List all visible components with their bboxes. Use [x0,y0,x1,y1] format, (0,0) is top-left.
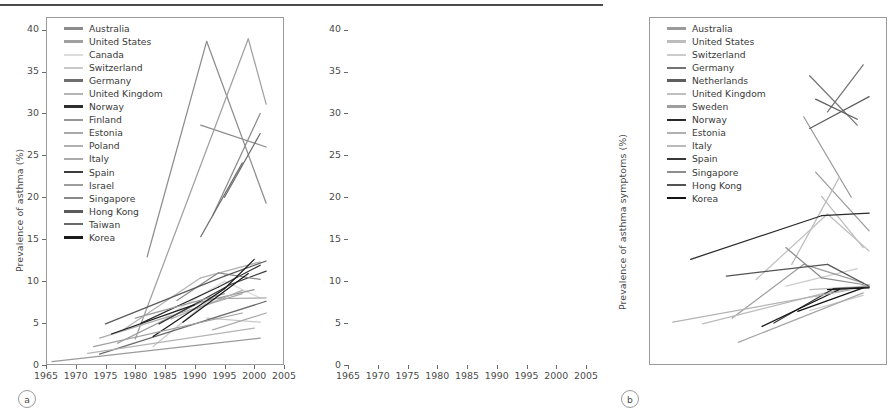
y-tick-mark [42,72,46,73]
legend-swatch [667,132,686,134]
legend-label: Norway [89,101,124,112]
legend-item: Spain [667,152,766,165]
legend-swatch [667,119,686,121]
legend-label: Germany [692,62,734,73]
data-line [792,177,840,264]
y-tick-mark [42,323,46,324]
legend-label: Korea [692,193,718,204]
legend-item: Italy [64,152,163,165]
x-tick-mark [195,365,196,369]
data-line [738,293,863,342]
data-line [828,65,864,112]
legend-swatch [64,119,83,121]
legend-item: Singapore [667,166,766,179]
data-line [201,163,243,237]
data-line [828,214,870,251]
legend-swatch [667,145,686,147]
y-tick-mark [344,30,348,31]
x-tick-label: 1970 [60,370,92,381]
legend-item: United Kingdom [64,87,163,100]
y-tick-label: 0 [315,359,341,370]
legend-item: Italy [667,139,766,152]
y-tick-mark [344,113,348,114]
x-tick-label: 1990 [481,370,513,381]
x-tick-mark [497,365,498,369]
x-tick-mark [467,365,468,369]
y-tick-label: 25 [13,149,39,160]
y-tick-label: 10 [13,275,39,286]
legend-swatch [667,171,686,174]
data-line [207,41,267,203]
x-tick-mark [378,365,379,369]
x-tick-label: 1990 [179,370,211,381]
legend-item: Australia [64,22,163,35]
y-tick-label: 15 [315,233,341,244]
legend-item: Norway [64,100,163,113]
legend-item: Taiwan [64,218,163,231]
x-tick-label: 1965 [30,370,62,381]
legend-item: United States [667,35,766,48]
y-tick-mark [42,281,46,282]
y-tick-label: 40 [315,23,341,34]
legend-label: Germany [89,75,131,86]
x-tick-label: 1975 [392,370,424,381]
y-tick-label: 30 [13,107,39,118]
legend-swatch [64,93,83,95]
x-tick-label: 2000 [238,370,270,381]
y-tick-label: 20 [13,191,39,202]
legend-item: United States [64,35,163,48]
legend-label: Canada [89,49,124,60]
x-tick-mark [135,365,136,369]
legend-swatch [64,67,83,69]
data-line [52,338,260,361]
legend-swatch [64,54,83,56]
x-tick-mark [225,365,226,369]
x-tick-mark [284,365,285,369]
x-tick-mark [527,365,528,369]
legend-swatch [64,171,83,174]
legend-swatch [64,132,83,134]
legend-label: Australia [692,23,733,34]
x-tick-label: 2000 [540,370,572,381]
legend-item: Canada [64,48,163,61]
legend-label: Norway [692,114,727,125]
legend-item: Finland [64,113,163,126]
x-tick-mark [165,365,166,369]
legend-swatch [667,197,686,199]
legend-item: Poland [64,139,163,152]
data-line [756,214,827,279]
legend-label: Singapore [692,167,738,178]
legend-label: Taiwan [89,219,120,230]
data-line [816,99,858,119]
legend-label: Switzerland [692,49,746,60]
x-tick-label: 2005 [570,370,602,381]
legend-item: Hong Kong [64,205,163,218]
data-line [248,39,266,104]
legend-swatch [64,158,83,160]
legend-swatch [667,184,686,186]
legend-item: Switzerland [667,48,766,61]
legend-swatch [667,54,686,56]
x-tick-label: 1985 [451,370,483,381]
legend-item: Israel [64,179,163,192]
y-tick-label: 0 [13,359,39,370]
legend-item: Spain [64,166,163,179]
legend-label: Italy [89,153,109,164]
y-tick-label: 20 [315,191,341,202]
legend-item: Norway [667,113,766,126]
legend-label: United States [692,36,754,47]
x-tick-label: 2005 [268,370,300,381]
legend-label: Estonia [89,127,123,138]
legend-label: Singapore [89,193,135,204]
y-tick-mark [42,155,46,156]
data-line [219,301,267,316]
x-tick-mark [106,365,107,369]
y-tick-label: 5 [315,317,341,328]
legend-label: Sweden [692,101,728,112]
legend-swatch [667,79,686,82]
legend-swatch [64,197,83,199]
x-tick-mark [586,365,587,369]
legend-label: Switzerland [89,62,143,73]
x-tick-label: 1965 [332,370,364,381]
y-tick-mark [344,323,348,324]
